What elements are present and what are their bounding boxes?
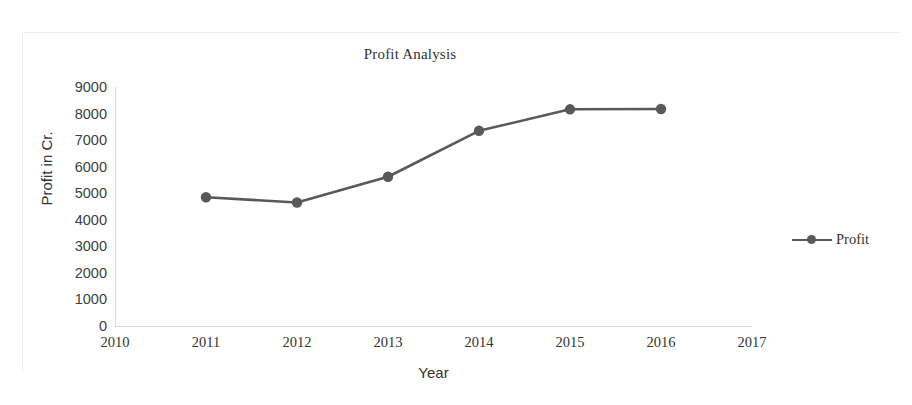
legend-label-profit: Profit [836,231,869,248]
data-point-2012 [292,197,302,207]
series-markers-profit [201,104,666,208]
series-line-profit [206,109,661,202]
legend-circle-icon [807,235,816,244]
legend-marker-profit [792,234,832,246]
series-profit [0,0,912,405]
data-point-2015 [565,104,575,114]
data-point-2013 [383,172,393,182]
legend: Profit [792,231,869,248]
data-point-2011 [201,192,211,202]
chart-figure: Profit Analysis 9000 8000 7000 6000 5000… [0,0,912,405]
data-point-2014 [474,126,484,136]
data-point-2016 [656,104,666,114]
